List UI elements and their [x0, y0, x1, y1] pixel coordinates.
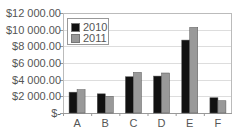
legend-label: 2011 [83, 33, 107, 44]
y-tick-label: $4 000.00 [12, 75, 61, 86]
y-tick-label: $- [51, 108, 61, 119]
bar-2010-B [97, 94, 105, 113]
x-tick-label: A [67, 117, 87, 129]
legend: 2010 2011 [67, 18, 109, 45]
bar-2011-A [77, 90, 85, 113]
y-tick-label: $10 000.00 [6, 25, 61, 36]
y-tick-label: $6 000.00 [12, 58, 61, 69]
x-tick-label: D [152, 117, 172, 129]
bar-2011-C [133, 72, 141, 113]
x-tick-label: F [208, 117, 228, 129]
y-tick-label: $12 000.00 [6, 8, 61, 19]
bar-2010-F [210, 98, 218, 113]
x-tick-label: E [180, 117, 200, 129]
bar-2011-F [218, 101, 226, 113]
legend-item-2011: 2011 [71, 33, 107, 44]
bar-2010-C [125, 77, 133, 113]
legend-swatch-2010 [71, 23, 80, 32]
bar-2011-E [190, 27, 198, 113]
legend-swatch-2011 [71, 34, 80, 43]
bar-2010-A [69, 92, 77, 113]
bar-2010-D [154, 76, 162, 113]
x-tick-label: B [95, 117, 115, 129]
x-tick-label: C [123, 117, 143, 129]
bar-chart: $-$2 000.00$4 000.00$6 000.00$8 000.00$1… [0, 0, 234, 133]
bar-2011-B [105, 96, 113, 113]
y-tick-label: $2 000.00 [12, 91, 61, 102]
y-tick-label: $8 000.00 [12, 41, 61, 52]
bar-2010-E [182, 40, 190, 113]
bar-2011-D [162, 73, 170, 113]
